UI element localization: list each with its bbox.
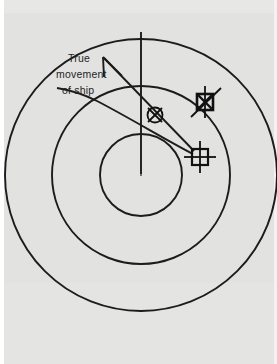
radar-plot-figure: True movement of ship <box>0 0 277 364</box>
radar-plot-canvas: True movement of ship <box>0 0 277 364</box>
annotation-line-2: movement <box>56 68 107 80</box>
relative-track-curve <box>57 88 193 154</box>
annotation-line-1: True <box>68 52 90 64</box>
target-cross-diagonal-upper <box>191 88 221 117</box>
centre-dot <box>140 174 142 176</box>
annotation-line-3: of ship <box>62 84 94 96</box>
